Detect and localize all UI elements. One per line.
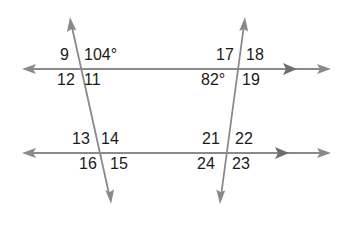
angle-label-21: 21 [202,131,220,147]
angle-label-11: 11 [84,72,101,88]
angle-label-9: 9 [60,47,69,63]
angle-label-13: 13 [72,131,90,147]
angle-label-22: 22 [235,131,253,147]
angle-label-23: 23 [232,156,250,172]
angle-label-19: 19 [242,72,260,88]
angle-label-16: 16 [79,156,97,172]
angle-label-104-degrees: 104° [84,47,117,63]
angle-label-14: 14 [101,131,119,147]
down-arrowhead-icon [105,190,114,205]
angle-label-15: 15 [110,156,128,172]
angle-label-12: 12 [57,72,75,88]
angle-label-82-degrees: 82° [201,72,225,88]
angle-label-24: 24 [197,156,215,172]
parallel-lines-transversals-diagram [0,0,357,227]
bottom-parallel-line [22,147,331,159]
angle-label-17: 17 [216,47,234,63]
angle-label-18: 18 [246,47,264,63]
